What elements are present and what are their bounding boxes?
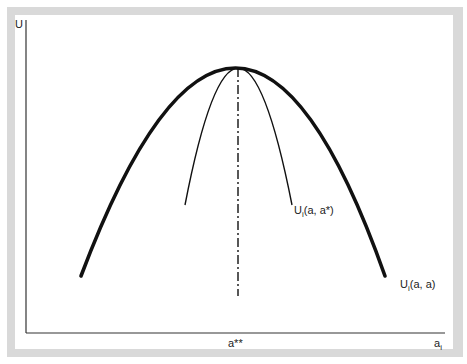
utility-diagram: U ai a** Ui(a, a*) Ui(a, a)	[0, 0, 467, 364]
curve-inner-label: Ui(a, a*)	[294, 204, 334, 219]
x-axis-label: ai	[434, 337, 442, 352]
x-axis-label-sub: i	[440, 343, 442, 352]
y-axis-label: U	[15, 18, 23, 30]
peak-label: a**	[228, 337, 243, 349]
curve-outer-label: Ui(a, a)	[400, 278, 435, 293]
curve-outer-label-main: U	[400, 278, 408, 290]
curve-inner-label-main: U	[294, 204, 302, 216]
curve-outer-label-args: (a, a)	[410, 278, 436, 290]
curve-inner-label-args: (a, a*)	[304, 204, 334, 216]
curve-outer	[81, 68, 385, 276]
